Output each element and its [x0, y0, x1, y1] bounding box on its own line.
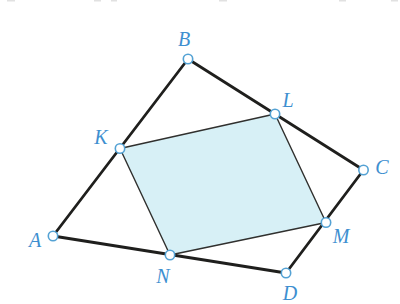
point-a-label: A	[27, 229, 42, 251]
point-m-label: M	[332, 225, 351, 247]
midpoint-parallelogram-klmn	[120, 114, 326, 255]
point-n-marker	[165, 250, 174, 259]
point-d-label: D	[282, 282, 298, 304]
geometry-figure: A B C D K L M N	[0, 0, 400, 304]
point-c-label: C	[375, 156, 389, 178]
point-c-marker	[359, 165, 368, 174]
point-b-label: B	[178, 28, 190, 50]
point-b-marker	[183, 54, 192, 63]
point-l-marker	[270, 109, 279, 118]
point-a-marker	[48, 231, 57, 240]
point-l-label: L	[281, 89, 293, 111]
diagram-svg: A B C D K L M N	[0, 0, 400, 304]
cropped-text-artifacts	[7, 0, 398, 2]
point-d-marker	[281, 268, 290, 277]
point-k-label: K	[93, 126, 109, 148]
point-k-marker	[115, 144, 124, 153]
point-n-label: N	[155, 265, 171, 287]
point-m-marker	[321, 218, 330, 227]
